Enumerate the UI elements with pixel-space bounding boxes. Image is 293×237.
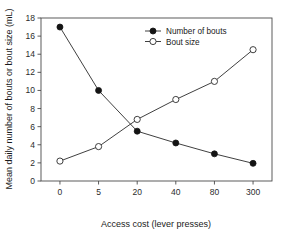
x-axis-tick-labels: 05204080300 xyxy=(58,187,261,197)
data-point xyxy=(96,87,102,93)
data-point xyxy=(211,151,217,157)
legend-label: Number of bouts xyxy=(166,27,227,36)
series-line-number-of-bouts xyxy=(60,27,253,163)
y-tick-label: 2 xyxy=(30,158,35,168)
y-tick-label: 10 xyxy=(26,85,36,95)
data-point xyxy=(173,96,179,102)
data-point xyxy=(57,24,63,30)
data-point xyxy=(134,128,140,134)
legend-marker-open-circle-icon xyxy=(150,38,156,44)
y-tick-label: 18 xyxy=(26,13,36,23)
legend-label: Bout size xyxy=(166,38,200,47)
x-tick-label: 0 xyxy=(58,187,63,197)
x-tick-label: 20 xyxy=(132,187,142,197)
x-tick-label: 5 xyxy=(96,187,101,197)
plot-frame xyxy=(41,18,272,181)
x-tick-label: 80 xyxy=(210,187,220,197)
y-tick-label: 4 xyxy=(30,140,35,150)
y-tick-label: 14 xyxy=(26,49,36,59)
data-point xyxy=(95,143,101,149)
data-point xyxy=(250,160,256,166)
chart-legend: Number of boutsBout size xyxy=(145,27,227,47)
y-axis-title: Mean daily number of bouts or bout size … xyxy=(4,8,14,189)
line-chart: 024681012141618 05204080300 Number of bo… xyxy=(0,0,293,237)
y-tick-label: 0 xyxy=(30,176,35,186)
x-tick-label: 40 xyxy=(171,187,181,197)
data-series-layer xyxy=(57,24,256,166)
y-tick-label: 8 xyxy=(30,104,35,114)
legend-marker-filled-circle-icon xyxy=(150,28,156,34)
data-point xyxy=(134,116,140,122)
y-axis-ticks xyxy=(38,18,42,181)
y-tick-label: 6 xyxy=(30,122,35,132)
data-point xyxy=(211,78,217,84)
data-point xyxy=(250,47,256,53)
x-tick-label: 300 xyxy=(246,187,260,197)
series-line-bout-size xyxy=(60,50,253,161)
x-axis-title: Access cost (lever presses) xyxy=(101,219,211,229)
chart-figure: 024681012141618 05204080300 Number of bo… xyxy=(0,0,293,237)
data-point xyxy=(173,140,179,146)
x-axis-ticks xyxy=(60,181,253,185)
y-tick-label: 16 xyxy=(26,31,36,41)
y-axis-tick-labels: 024681012141618 xyxy=(26,13,36,186)
data-point xyxy=(57,158,63,164)
y-tick-label: 12 xyxy=(26,67,36,77)
